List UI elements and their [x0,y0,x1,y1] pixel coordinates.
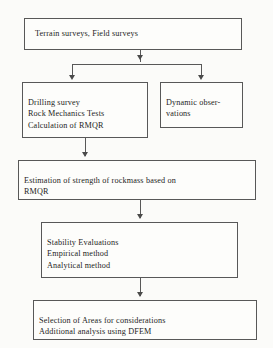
node-text: Selection of Areas for considerations Ad… [39,315,256,337]
arrowhead-icon-split-to-left [69,75,75,80]
node-text: Terrain surveys, Field surveys [30,28,138,39]
flowchart-node-estimation-of-strength: Estimation of strength of rockmass based… [18,160,256,200]
flowchart-canvas: Terrain surveys, Field surveys Drilling … [0,0,273,348]
arrowhead-icon-left-to-estimation [82,152,88,157]
flowchart-node-selection-of-areas: Selection of Areas for considerations Ad… [33,300,257,340]
flowchart-node-drilling-survey: Drilling survey Rock Mechanics Tests Cal… [22,82,148,138]
node-text: Estimation of strength of rockmass based… [24,175,255,197]
arrowhead-icon-top-to-split [137,55,143,60]
node-text: Dynamic obser- vations [166,97,242,119]
connector-split-bar [72,64,202,65]
node-text: Drilling survey Rock Mechanics Tests Cal… [28,97,147,131]
flowchart-node-stability-evaluations: Stability Evaluations Empirical method A… [41,222,238,278]
flowchart-node-terrain-surveys: Terrain surveys, Field surveys [24,18,242,50]
flowchart-node-dynamic-observations: Dynamic obser- vations [160,82,243,128]
arrowhead-icon-split-to-right [198,75,204,80]
arrowhead-icon-estimation-to-stability [137,214,143,219]
arrowhead-icon-stability-to-selection [137,292,143,297]
node-text: Stability Evaluations Empirical method A… [47,237,237,271]
